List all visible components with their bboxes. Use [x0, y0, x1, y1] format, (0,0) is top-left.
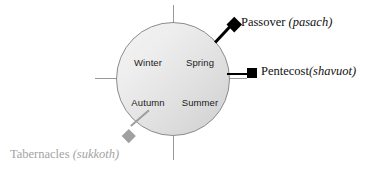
pentecost-square-marker-icon [247, 68, 257, 78]
tabernacles-name: Tabernacles [10, 147, 73, 161]
season-label-spring: Spring [178, 57, 222, 68]
season-circle [116, 22, 230, 136]
passover-label: Passover (pasach) [241, 15, 332, 30]
passover-term: (pasach) [289, 15, 333, 29]
tabernacles-term: (sukkoth) [73, 147, 120, 161]
passover-diamond-marker-icon [227, 17, 242, 32]
seasonal-wheel-diagram: Winter Spring Autumn Summer Passover (pa… [0, 0, 368, 174]
pentecost-name: Pentecost [261, 64, 309, 78]
tabernacles-label: Tabernacles (sukkoth) [10, 147, 119, 162]
pentecost-leader-line [227, 73, 249, 76]
tabernacles-diamond-marker-icon [122, 129, 135, 142]
season-label-summer: Summer [178, 97, 222, 108]
pentecost-label: Pentecost(shavuot) [261, 64, 356, 79]
season-label-autumn: Autumn [126, 97, 170, 108]
passover-name: Passover [241, 15, 285, 29]
season-label-winter: Winter [126, 57, 170, 68]
pentecost-term: (shavuot) [309, 64, 356, 78]
